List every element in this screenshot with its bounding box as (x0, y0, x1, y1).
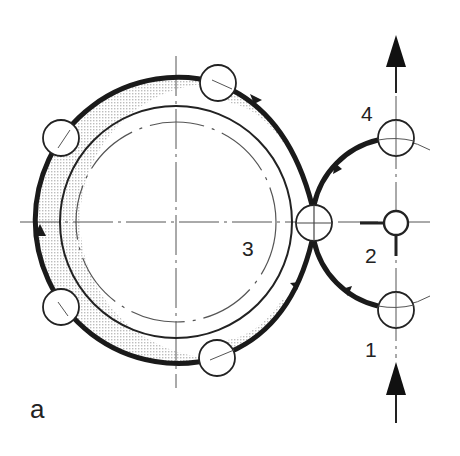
label-station-2: 2 (365, 244, 377, 267)
label-station-3: 3 (242, 237, 254, 260)
pocket-circle-upper-left (43, 120, 79, 156)
pocket-circle-bottom (199, 340, 235, 376)
station-3-circle (296, 205, 332, 241)
panel-label: a (30, 394, 45, 424)
label-station-1: 1 (365, 338, 377, 361)
station-4-circle (378, 120, 414, 156)
input-arrow-icon (386, 362, 406, 423)
diagram-canvas: 4 2 1 3 a (0, 0, 460, 456)
output-arrow-icon (386, 35, 406, 93)
station-1-circle (378, 292, 414, 328)
label-station-4: 4 (361, 102, 373, 125)
